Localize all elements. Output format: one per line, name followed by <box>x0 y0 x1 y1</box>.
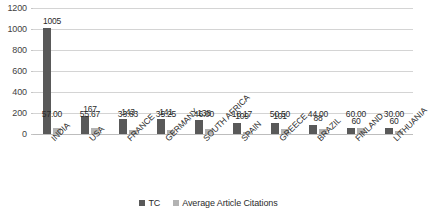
legend-label: Average Article Citations <box>182 198 277 208</box>
bar-tc <box>157 119 166 134</box>
bar-tc <box>233 123 242 134</box>
y-tick-label: 1200 <box>7 3 27 13</box>
y-tick-label: 1000 <box>7 24 27 34</box>
legend-item[interactable]: Average Article Citations <box>173 198 277 208</box>
bar-tc <box>195 120 204 134</box>
legend-item[interactable]: TC <box>139 198 160 208</box>
bar-tc <box>119 119 128 134</box>
bar-value-label-average: 57.00 <box>35 110 70 119</box>
y-tick-label: 400 <box>12 87 27 97</box>
y-tick-label: 0 <box>22 129 27 139</box>
y-axis: 020040060080010001200 <box>0 8 30 134</box>
bar-tc <box>309 125 318 134</box>
bar-value-label-average: 55.67 <box>73 110 108 119</box>
x-axis-category-labels: INDIAUSAFRANCEGERMANYSOUTH AFRICASPAINGR… <box>33 134 413 186</box>
y-tick-label: 800 <box>12 45 27 55</box>
bar-tc <box>81 116 90 134</box>
legend-label: TC <box>148 198 160 208</box>
bar-value-label-average: 33.83 <box>111 110 146 119</box>
y-tick-label: 200 <box>12 108 27 118</box>
y-tick-label: 600 <box>12 66 27 76</box>
legend-swatch-icon <box>173 200 179 206</box>
legend-swatch-icon <box>139 200 145 206</box>
bar-value-label-tc: 1005 <box>35 17 70 26</box>
bar-value-label-average: 60.00 <box>339 110 374 119</box>
chart-legend: TCAverage Article Citations <box>0 198 417 208</box>
bar-value-label-average: 50.50 <box>263 110 298 119</box>
bar-tc <box>271 123 280 134</box>
